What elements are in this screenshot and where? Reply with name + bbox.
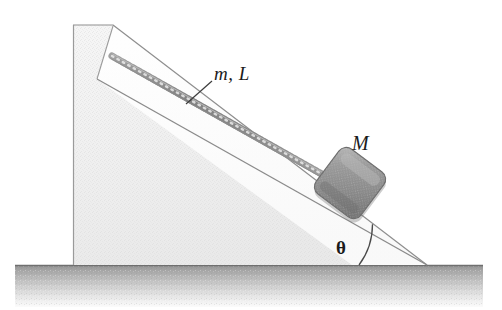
rope-mass-length-label: m, L xyxy=(214,64,250,83)
diagram-canvas xyxy=(0,0,502,310)
block-mass-label: M xyxy=(352,133,369,153)
incline-angle-label: θ xyxy=(336,238,346,257)
ground-surface xyxy=(15,265,483,307)
physics-diagram-figure: m, L M θ xyxy=(0,0,502,310)
